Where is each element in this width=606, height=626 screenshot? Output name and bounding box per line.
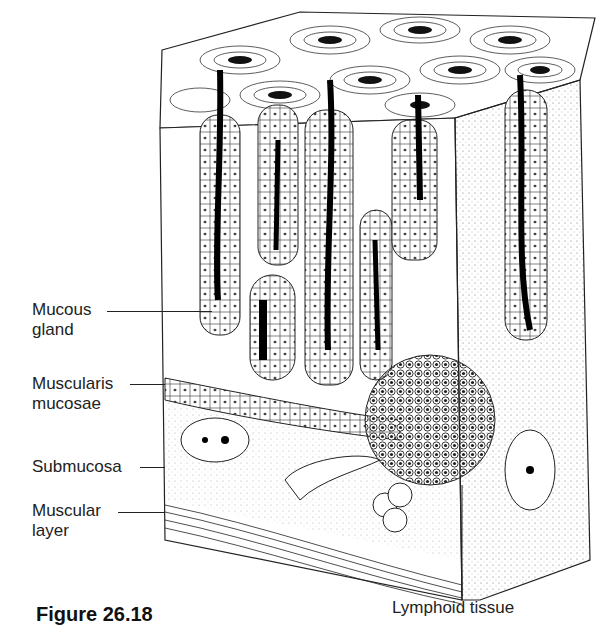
label-muscular-layer-line2: layer <box>32 521 101 541</box>
label-lymphoid-tissue: Lymphoid tissue <box>392 598 514 618</box>
label-submucosa-line1: Submucosa <box>32 457 122 477</box>
leader-mucous-gland <box>107 311 212 312</box>
label-muscular-layer: Muscular layer <box>32 501 101 541</box>
leader-submucosa <box>140 467 165 468</box>
label-mucous-gland-line2: gland <box>32 320 92 340</box>
label-lymphoid-tissue-text: Lymphoid tissue <box>392 598 514 617</box>
label-muscularis-mucosae: Muscularis mucosae <box>32 374 113 414</box>
label-mucous-gland: Mucous gland <box>32 300 92 340</box>
figure-caption: Figure 26.18 <box>36 603 153 626</box>
label-submucosa: Submucosa <box>32 457 122 477</box>
leader-muscularis-mucosae <box>130 384 165 385</box>
lymphoid-nodule <box>365 355 495 485</box>
label-muscular-layer-line1: Muscular <box>32 501 101 521</box>
leader-muscular-layer <box>118 512 165 513</box>
label-muscularis-mucosae-line2: mucosae <box>32 394 113 414</box>
label-mucous-gland-line1: Mucous <box>32 300 92 320</box>
label-muscularis-mucosae-line1: Muscularis <box>32 374 113 394</box>
